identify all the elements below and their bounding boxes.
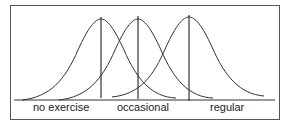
label-occasional: occasional (117, 101, 169, 113)
label-regular: regular (210, 101, 244, 113)
label-no-exercise: no exercise (33, 101, 89, 113)
curve-no-exercise (22, 19, 176, 100)
curve-regular (112, 17, 264, 97)
curve-occasional (59, 19, 213, 100)
